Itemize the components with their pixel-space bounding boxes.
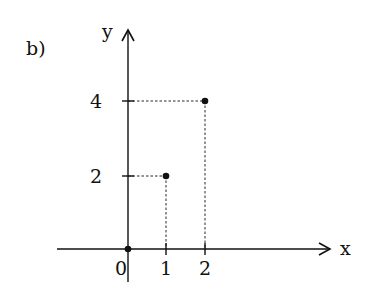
y-tick-label-4: 4 bbox=[90, 90, 102, 112]
chart-canvas: b) y x 4 2 0 1 2 bbox=[0, 0, 383, 290]
chart-figure: b) y x 4 2 0 1 2 bbox=[0, 0, 383, 290]
y-axis-label: y bbox=[101, 20, 113, 42]
x-axis-label: x bbox=[340, 237, 351, 259]
y-tick-label-2: 2 bbox=[90, 165, 102, 187]
x-tick-label-2: 2 bbox=[199, 257, 211, 279]
data-point-0-0 bbox=[125, 246, 132, 253]
data-point-1-2 bbox=[163, 173, 170, 180]
data-point-2-4 bbox=[202, 98, 209, 105]
x-tick-label-0: 0 bbox=[115, 257, 127, 279]
panel-label: b) bbox=[26, 37, 46, 59]
x-tick-label-1: 1 bbox=[160, 257, 172, 279]
